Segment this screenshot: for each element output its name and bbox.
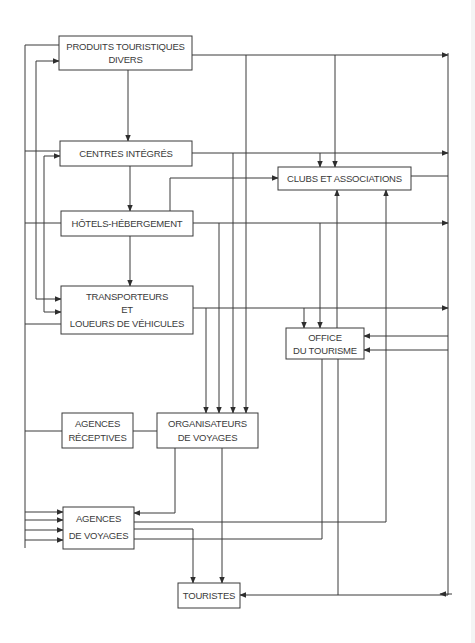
edge-inner-bus-produits [36,61,59,299]
edge-organisateurs-to-agences-voyages [134,448,175,513]
page-edge [471,0,475,643]
node-label: OFFICE [308,332,342,343]
edge-left-bus-stub [25,512,29,540]
edge-agences-voyages-to-touristes [134,529,193,583]
node-agences-voyages: AGENCES DE VOYAGES [63,507,134,549]
node-centres-integres: CENTRES INTÉGRÉS [60,141,192,166]
edge-left-outer-bus [25,45,59,548]
node-agences-receptives: AGENCES RÉCEPTIVES [62,413,133,448]
node-label: HÔTELS-HÉBERGEMENT [72,218,183,229]
node-label: CENTRES INTÉGRÉS [79,148,172,159]
node-label: ORGANISATEURS [168,418,247,429]
node-office-tourisme: OFFICE DU TOURISME [286,328,364,359]
node-label: AGENCES [76,513,121,524]
node-label: AGENCES [75,418,120,429]
node-label: LOUEURS DE VÉHICULES [70,318,184,329]
tourism-flow-diagram: PRODUITS TOURISTIQUES DIVERS CENTRES INT… [0,0,475,643]
node-clubs-associations: CLUBS ET ASSOCIATIONS [278,167,411,190]
node-produits-touristiques: PRODUITS TOURISTIQUES DIVERS [59,36,192,70]
node-label: DU TOURISME [293,345,357,356]
node-transporteurs-loueurs: TRANSPORTEURS ET LOUEURS DE VÉHICULES [61,286,193,334]
node-label: TOURISTES [183,590,235,601]
node-label: RÉCEPTIVES [68,432,126,443]
node-touristes: TOURISTES [178,583,240,608]
node-hotels-hebergement: HÔTELS-HÉBERGEMENT [61,211,193,236]
node-label: DE VOYAGES [178,432,238,443]
edge-hotels-to-clubs [170,178,278,211]
edge-inner-bus-centres [44,156,60,312]
node-label: PRODUITS TOURISTIQUES [66,41,184,52]
node-label: DE VOYAGES [69,530,129,541]
node-organisateurs-voyages: ORGANISATEURS DE VOYAGES [157,413,258,448]
node-label: DIVERS [108,54,142,65]
node-label: ET [121,304,133,315]
node-label: CLUBS ET ASSOCIATIONS [287,173,402,184]
edge-agences-voyages-to-office [134,359,322,539]
node-label: TRANSPORTEURS [86,291,168,302]
